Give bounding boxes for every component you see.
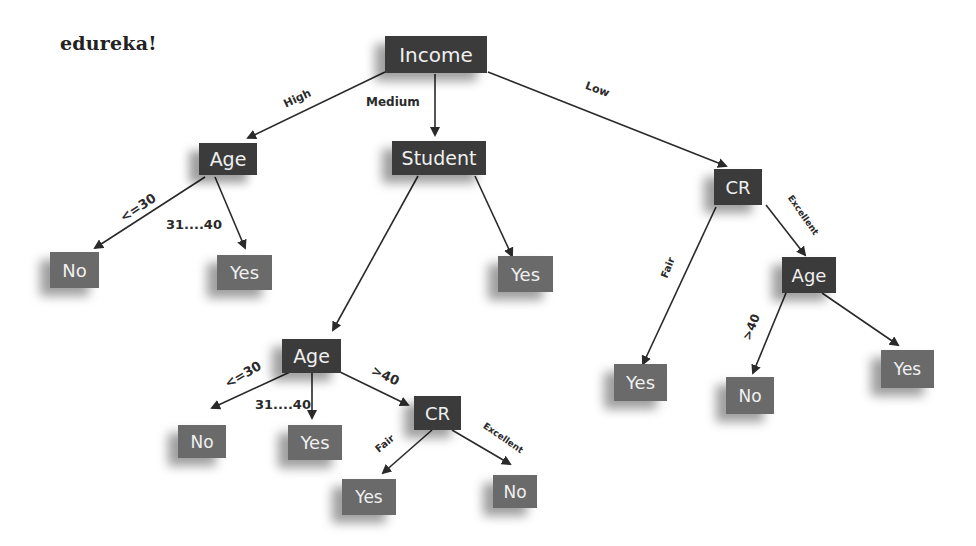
node-leaf-label: No — [503, 482, 526, 502]
node-cr-low: CR — [714, 169, 762, 205]
edge-age1-no1 — [95, 177, 205, 248]
edge-age3-yes6 — [822, 293, 898, 345]
node-leaf-label: Yes — [626, 372, 655, 393]
edge-age1-yes1 — [215, 177, 245, 248]
node-leaf-yes-cr1-fair: Yes — [614, 364, 667, 401]
node-leaf-yes-age2-31-40: Yes — [288, 425, 342, 460]
node-leaf-yes-age3: Yes — [881, 350, 934, 388]
node-leaf-label: No — [738, 386, 761, 406]
node-student: Student — [392, 141, 486, 175]
node-income: Income — [385, 36, 487, 73]
node-leaf-label: Yes — [511, 264, 540, 285]
node-leaf-no-age3-gt40: No — [726, 377, 774, 414]
edge-label-age1-31-40: 31....40 — [166, 217, 222, 232]
node-leaf-no-age-le30: No — [50, 252, 99, 288]
node-leaf-label: Yes — [355, 487, 382, 507]
edge-label-medium: Medium — [366, 95, 420, 109]
edge-cr1-yes5 — [643, 207, 716, 364]
node-leaf-no-age2-le30: No — [178, 425, 226, 458]
node-cr-low-label: CR — [725, 177, 750, 198]
node-leaf-label: No — [62, 260, 86, 281]
edge-label-age2-31-40: 31....40 — [255, 397, 311, 412]
node-leaf-yes-student: Yes — [498, 256, 553, 292]
node-leaf-label: No — [190, 432, 213, 452]
node-age-student-branch-label: Age — [293, 345, 330, 367]
node-age-high-label: Age — [210, 148, 247, 170]
node-age-high: Age — [199, 143, 257, 175]
node-income-label: Income — [399, 43, 473, 67]
edge-student-yes2 — [475, 176, 512, 256]
edge-age3-no4 — [753, 293, 786, 373]
edge-income-age1 — [248, 72, 385, 138]
node-cr-age2-gt40-label: CR — [425, 403, 450, 424]
node-leaf-yes-age-31-40: Yes — [217, 255, 272, 290]
node-leaf-no-cr2-excellent: No — [493, 475, 537, 508]
node-leaf-label: Yes — [894, 359, 921, 379]
node-age-cr1-excellent-label: Age — [792, 265, 827, 286]
node-age-student-branch: Age — [282, 339, 341, 373]
node-leaf-label: Yes — [230, 262, 259, 283]
node-student-label: Student — [402, 147, 477, 169]
edge-student-age2 — [333, 176, 418, 330]
node-age-cr1-excellent: Age — [782, 257, 836, 293]
node-cr-age2-gt40: CR — [414, 396, 461, 430]
node-leaf-yes-cr2-fair: Yes — [342, 479, 396, 515]
node-leaf-label: Yes — [300, 432, 329, 453]
